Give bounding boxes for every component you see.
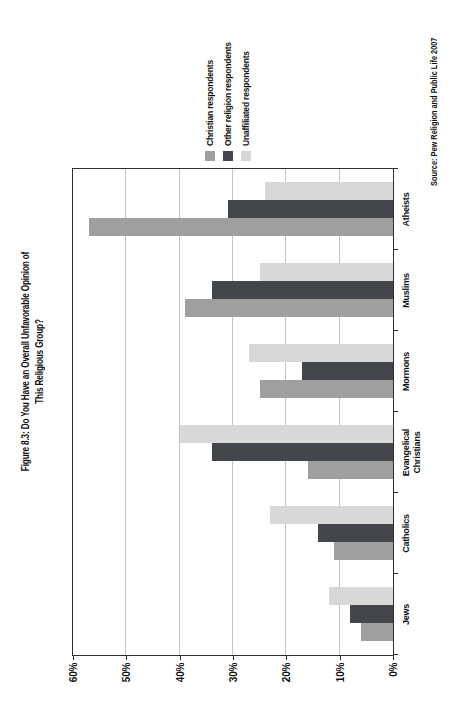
plot-area <box>72 168 394 656</box>
x-category-label-catholics: Catholics <box>401 498 412 570</box>
bar-muslims-unaffiliated-respondents <box>260 264 393 282</box>
x-category-label-atheists: Atheists <box>401 174 412 246</box>
x-tick-mark-2 <box>394 492 398 493</box>
y-tick-label-50pct: 50% <box>121 663 132 723</box>
legend-swatch-icon <box>241 151 251 161</box>
y-tick-label-10pct: 10% <box>335 663 346 723</box>
y-tick-mark-50pct <box>126 656 127 660</box>
bar-mormons-unaffiliated-respondents <box>249 345 393 363</box>
legend-swatch-icon <box>205 151 215 161</box>
y-tick-label-0pct: 0% <box>388 663 399 723</box>
legend-label: Unaffiliated respondents <box>241 51 251 146</box>
x-tick-mark-6 <box>394 168 398 169</box>
bar-catholics-christian-respondents <box>334 543 393 561</box>
source-note: Source: Pew Religion and Public Life 200… <box>429 38 439 186</box>
y-tick-mark-40pct <box>180 656 181 660</box>
bar-catholics-other-religion-respondents <box>318 525 393 543</box>
legend: Christian respondentsOther religion resp… <box>205 42 259 161</box>
value-axis: 0%10%20%30%40%50%60% <box>72 663 394 723</box>
chart-title-line2: This Religious Group? <box>32 80 46 644</box>
bar-atheists-unaffiliated-respondents <box>265 183 393 201</box>
x-tick-mark-0 <box>394 654 398 655</box>
rotated-chart-canvas: Figure 8.3: Do You Have an Overall Unfav… <box>0 0 453 723</box>
x-category-label-mormons: Mormons <box>401 336 412 408</box>
bar-muslims-christian-respondents <box>185 300 393 318</box>
legend-row-christian-respondents: Christian respondents <box>205 42 215 161</box>
bar-mormons-other-religion-respondents <box>302 363 393 381</box>
y-tick-label-60pct: 60% <box>68 663 79 723</box>
x-tick-mark-1 <box>394 573 398 574</box>
legend-swatch-icon <box>223 151 233 161</box>
y-tick-label-40pct: 40% <box>175 663 186 723</box>
y-tick-mark-60pct <box>73 656 74 660</box>
legend-label: Other religion respondents <box>223 42 233 146</box>
y-tick-mark-30pct <box>233 656 234 660</box>
bar-atheists-other-religion-respondents <box>228 201 393 219</box>
bar-muslims-other-religion-respondents <box>212 282 393 300</box>
chart-title-line1: Figure 8.3: Do You Have an Overall Unfav… <box>18 80 32 644</box>
bar-evangelical-christians-other-religion-respondents <box>212 444 393 462</box>
bar-jews-unaffiliated-respondents <box>329 588 393 606</box>
gridline-10pct <box>339 169 340 655</box>
bar-evangelical-christians-unaffiliated-respondents <box>180 426 393 444</box>
x-category-label-muslims: Muslims <box>401 255 412 327</box>
bar-atheists-christian-respondents <box>89 219 393 237</box>
chart-title: Figure 8.3: Do You Have an Overall Unfav… <box>18 80 46 644</box>
y-tick-label-20pct: 20% <box>281 663 292 723</box>
category-axis: JewsCatholicsEvangelical ChristiansMormo… <box>401 168 441 656</box>
bar-catholics-unaffiliated-respondents <box>270 507 393 525</box>
x-tick-mark-5 <box>394 249 398 250</box>
bar-evangelical-christians-christian-respondents <box>308 462 393 480</box>
y-tick-mark-10pct <box>340 656 341 660</box>
gridline-30pct <box>232 169 233 655</box>
gridline-50pct <box>125 169 126 655</box>
legend-row-other-religion-respondents: Other religion respondents <box>223 42 233 161</box>
bar-jews-christian-respondents <box>361 624 393 642</box>
legend-row-unaffiliated-respondents: Unaffiliated respondents <box>241 42 251 161</box>
y-tick-mark-0pct <box>393 656 394 660</box>
y-tick-mark-20pct <box>286 656 287 660</box>
x-tick-mark-3 <box>394 411 398 412</box>
scanned-figure-page: Figure 8.3: Do You Have an Overall Unfav… <box>0 0 453 723</box>
gridline-40pct <box>179 169 180 655</box>
y-tick-label-30pct: 30% <box>228 663 239 723</box>
bar-mormons-christian-respondents <box>260 381 393 399</box>
x-category-label-evangelical-christians: Evangelical Christians <box>401 417 423 489</box>
x-tick-mark-4 <box>394 330 398 331</box>
gridline-20pct <box>285 169 286 655</box>
x-category-label-jews: Jews <box>401 579 412 651</box>
bar-jews-other-religion-respondents <box>350 606 393 624</box>
legend-label: Christian respondents <box>205 60 215 146</box>
